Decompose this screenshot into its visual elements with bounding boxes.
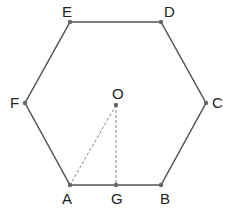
point-F — [23, 101, 27, 105]
hexagon-diagram: ABCDEFOG — [0, 0, 228, 215]
label-F: F — [10, 94, 19, 111]
label-D: D — [164, 3, 175, 20]
point-C — [204, 101, 208, 105]
label-E: E — [62, 3, 72, 20]
label-C: C — [212, 94, 223, 111]
label-O: O — [112, 85, 124, 102]
point-B — [159, 183, 163, 187]
point-D — [159, 20, 163, 24]
point-E — [68, 20, 72, 24]
point-G — [114, 183, 118, 187]
segment-OA — [70, 105, 116, 185]
label-G: G — [111, 190, 123, 207]
point-O — [114, 103, 118, 107]
label-B: B — [160, 190, 170, 207]
point-A — [68, 183, 72, 187]
label-A: A — [62, 190, 72, 207]
